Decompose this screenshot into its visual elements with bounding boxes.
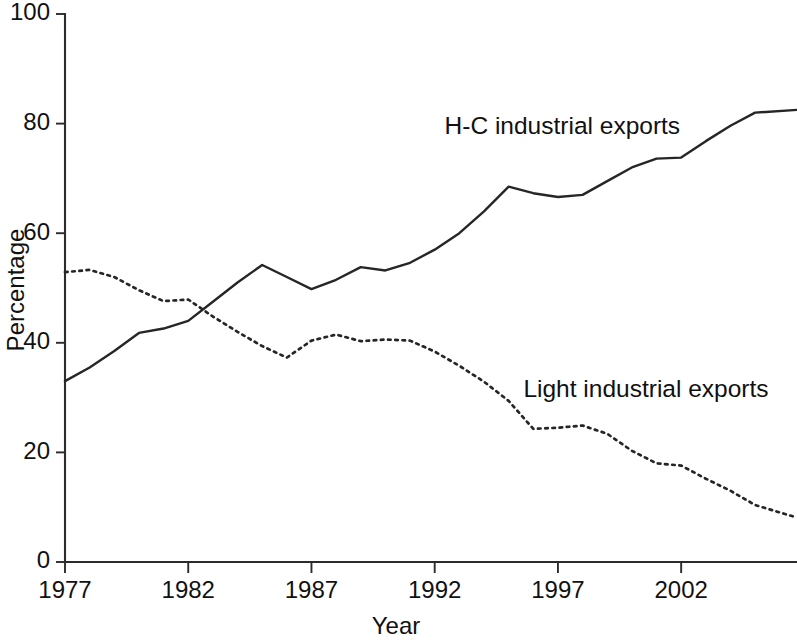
- y-tick-label: 0: [37, 546, 50, 573]
- x-axis-tick-labels: 197719821987199219972002: [38, 576, 708, 603]
- series-label: Light industrial exports: [523, 375, 768, 402]
- series-annotations: H-C industrial exportsLight industrial e…: [445, 112, 769, 402]
- y-tick-label: 20: [23, 437, 50, 464]
- x-axis-title: Year: [372, 612, 421, 639]
- x-tick-label: 1992: [408, 576, 461, 603]
- x-tick-label: 1977: [38, 576, 91, 603]
- chart-figure: 020406080100 197719821987199219972002 Ye…: [0, 0, 797, 642]
- y-tick-label: 80: [23, 108, 50, 135]
- y-tick-label: 100: [10, 0, 50, 25]
- x-tick-label: 1997: [531, 576, 584, 603]
- x-tick-label: 1987: [285, 576, 338, 603]
- line-chart-canvas: 020406080100 197719821987199219972002 Ye…: [0, 0, 797, 642]
- x-tick-label: 1982: [162, 576, 215, 603]
- y-axis-title: Percentage: [2, 229, 29, 352]
- series-label: H-C industrial exports: [445, 112, 681, 139]
- y-axis-ticks: [56, 14, 65, 562]
- x-axis-ticks: [65, 562, 681, 573]
- data-series-group: [65, 110, 797, 518]
- series-line-solid: [65, 110, 797, 381]
- x-tick-label: 2002: [654, 576, 707, 603]
